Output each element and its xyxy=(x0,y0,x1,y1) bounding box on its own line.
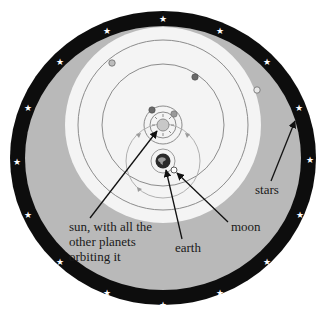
label-moon: moon xyxy=(231,219,261,234)
star-icon: ★ xyxy=(159,300,167,310)
star-icon: ★ xyxy=(295,103,303,113)
star-icon: ★ xyxy=(13,157,21,167)
star-icon: ★ xyxy=(216,26,224,36)
star-icon: ★ xyxy=(103,288,111,298)
planet-middle xyxy=(192,74,198,80)
earth-icon xyxy=(156,154,171,169)
planet-inner-gray xyxy=(171,111,177,117)
tychonic-diagram: ★ ★ ★ ★ ★ ★ ★ ★ ★ ★ ★ ★ ★ ★ ★ ★ xyxy=(0,0,324,314)
moon-icon xyxy=(171,167,177,173)
label-sun-line3: orbiting it xyxy=(69,249,152,264)
planet-outer xyxy=(109,60,115,66)
label-earth: earth xyxy=(175,240,201,255)
star-icon: ★ xyxy=(263,57,271,67)
star-icon: ★ xyxy=(263,257,271,267)
star-icon: ★ xyxy=(103,26,111,36)
label-sun: sun, with all the other planets orbiting… xyxy=(69,219,152,264)
star-icon: ★ xyxy=(56,257,64,267)
star-icon: ★ xyxy=(24,210,32,220)
planet-inner-dark xyxy=(149,107,155,113)
star-icon: ★ xyxy=(296,210,304,220)
planet-outermost xyxy=(254,87,260,93)
star-icon: ★ xyxy=(306,155,314,165)
star-icon: ★ xyxy=(159,14,167,24)
label-stars: stars xyxy=(255,182,279,197)
star-icon: ★ xyxy=(24,103,32,113)
label-sun-line1: sun, with all the xyxy=(69,219,152,234)
label-sun-line2: other planets xyxy=(69,234,152,249)
star-icon: ★ xyxy=(56,57,64,67)
star-icon: ★ xyxy=(216,288,224,298)
